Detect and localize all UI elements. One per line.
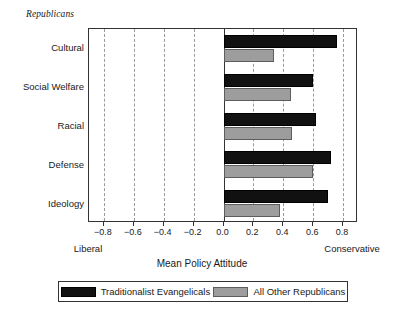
legend-entry: Traditionalist Evangelicals (61, 286, 210, 297)
x-axis-tick-mark (103, 222, 104, 226)
x-axis-tick-label: 0.2 (246, 227, 259, 237)
bar (224, 113, 317, 126)
x-axis: −0.8−0.6−0.4−0.20.00.20.40.60.8 (88, 222, 357, 227)
bar-group (89, 151, 356, 178)
legend-entry: All Other Republicans (213, 286, 345, 297)
bar (224, 127, 293, 140)
bar-group (89, 190, 356, 217)
y-axis-tick-label: Defense (0, 158, 84, 169)
bar (224, 88, 291, 101)
bar (224, 151, 332, 164)
legend-label: Traditionalist Evangelicals (101, 286, 210, 297)
x-axis-pole-left: Liberal (74, 243, 103, 254)
x-axis-tick-mark (163, 222, 164, 226)
x-axis-tick-label: 0.4 (276, 227, 289, 237)
x-axis-tick-label: 0.6 (306, 227, 319, 237)
x-axis-tick-label: 0.0 (216, 227, 229, 237)
chart-group-title: Republicans (26, 9, 74, 19)
bar (224, 74, 314, 87)
y-axis-tick-label: Ideology (0, 197, 84, 208)
x-axis-tick-mark (223, 222, 224, 226)
y-axis-tick-label: Racial (0, 120, 84, 131)
bar (224, 165, 314, 178)
x-axis-tick-mark (133, 222, 134, 226)
policy-attitude-chart: Republicans CulturalSocial WelfareRacial… (0, 0, 404, 316)
bar (224, 49, 275, 62)
x-axis-tick-mark (252, 222, 253, 226)
y-axis-category-labels: CulturalSocial WelfareRacialDefenseIdeol… (0, 28, 84, 222)
x-axis-tick-mark (342, 222, 343, 226)
x-axis-title: Mean Policy Attitude (0, 258, 404, 269)
bar (224, 190, 329, 203)
y-axis-tick-label: Social Welfare (0, 81, 84, 92)
black-swatch (61, 287, 96, 297)
gray-swatch (213, 287, 248, 297)
plot-area (88, 28, 357, 222)
bar (224, 204, 280, 217)
x-axis-tick-label: −0.4 (154, 227, 172, 237)
bar-group (89, 35, 356, 62)
x-axis-tick-label: −0.2 (184, 227, 202, 237)
chart-legend: Traditionalist EvangelicalsAll Other Rep… (58, 281, 348, 302)
x-axis-pole-right: Conservative (324, 243, 379, 254)
y-axis-tick-label: Cultural (0, 42, 84, 53)
bar (224, 35, 338, 48)
x-axis-tick-mark (193, 222, 194, 226)
x-axis-tick-label: 0.8 (336, 227, 349, 237)
x-axis-tick-mark (312, 222, 313, 226)
bar-group (89, 74, 356, 101)
bar-group (89, 113, 356, 140)
x-axis-tick-label: −0.6 (124, 227, 142, 237)
x-axis-tick-mark (282, 222, 283, 226)
x-axis-tick-label: −0.8 (94, 227, 112, 237)
legend-label: All Other Republicans (253, 286, 345, 297)
